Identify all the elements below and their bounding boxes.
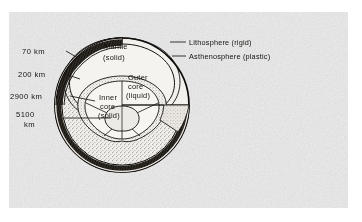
depth-label-5100km-line2: km — [24, 120, 35, 129]
figure-root: 70 km 200 km 2900 km 5100 km Mantle (sol… — [0, 0, 362, 222]
zone-label-mantle-line1: Mantle — [104, 42, 128, 51]
callouts-group: Lithosphere (rigid) Asthenosphere (plast… — [189, 38, 270, 61]
callout-lithosphere: Lithosphere (rigid) — [189, 38, 252, 47]
earth-cutaway-diagram: 70 km 200 km 2900 km 5100 km Mantle (sol… — [0, 0, 362, 222]
zone-label-outercore-line2: core — [128, 82, 143, 91]
zone-label-outercore-line1: Outer — [128, 73, 148, 82]
depth-labels-group: 70 km 200 km 2900 km 5100 km — [10, 47, 46, 129]
depth-label-70km: 70 km — [22, 47, 45, 56]
zone-label-mantle-line2: (solid) — [103, 53, 125, 62]
depth-label-5100km-line1: 5100 — [16, 110, 35, 119]
zone-label-innercore-line1: Inner — [99, 93, 117, 102]
zone-label-innercore-line2: core — [100, 102, 115, 111]
depth-label-2900km: 2900 km — [10, 92, 42, 101]
depth-label-200km: 200 km — [18, 70, 46, 79]
callout-asthenosphere: Asthenosphere (plastic) — [189, 52, 270, 61]
zone-label-innercore-line3: (solid) — [98, 111, 120, 120]
zone-label-outercore-line3: (liquid) — [126, 91, 150, 100]
